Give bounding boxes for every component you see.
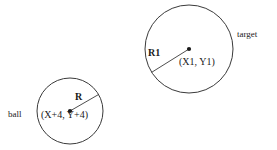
ball-label: ball [8, 110, 22, 119]
target-label: target [237, 30, 257, 39]
ball-radius-label: R [75, 92, 82, 102]
circles-diagram [0, 0, 277, 150]
target-center-dot [187, 47, 191, 51]
ball-center-coordinates-label: (X+4, Y+4) [41, 110, 88, 120]
target-radius-label: R1 [148, 48, 160, 58]
target-center-coordinates-label: (X1, Y1) [179, 57, 215, 67]
diagram-canvas: ball R (X+4, Y+4) R1 (X1, Y1) target [0, 0, 277, 150]
